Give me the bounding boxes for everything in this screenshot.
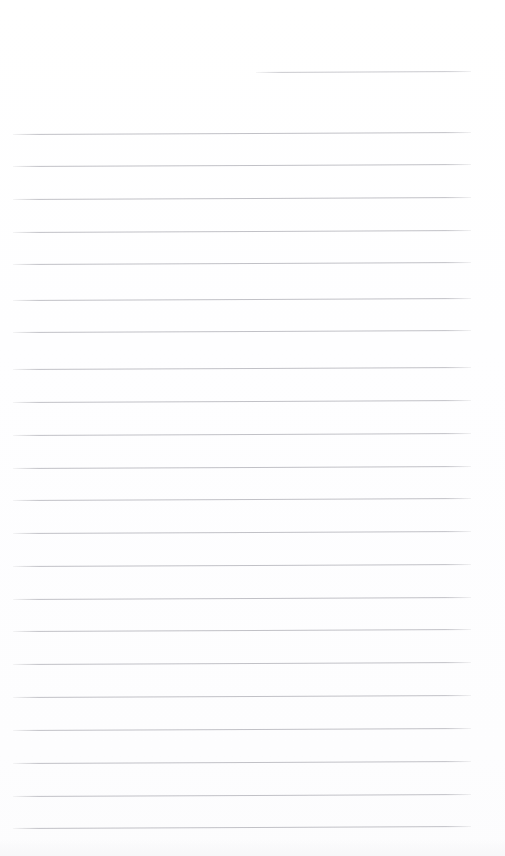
rule-line bbox=[13, 132, 471, 135]
rule-line bbox=[13, 728, 471, 731]
rule-line bbox=[13, 695, 471, 698]
rule-line bbox=[13, 498, 471, 501]
rule-line bbox=[13, 629, 471, 632]
rule-line bbox=[13, 466, 471, 469]
rule-line bbox=[13, 597, 471, 600]
rule-line bbox=[13, 662, 471, 665]
rule-line bbox=[13, 262, 471, 265]
rule-line bbox=[13, 330, 471, 333]
rule-line bbox=[13, 826, 471, 829]
rule-line bbox=[13, 400, 471, 403]
rule-line-partial bbox=[256, 71, 471, 73]
rule-line bbox=[13, 197, 471, 200]
rule-line bbox=[13, 761, 471, 764]
rule-line bbox=[13, 564, 471, 567]
rule-line bbox=[13, 230, 471, 233]
rule-line bbox=[13, 367, 471, 370]
rule-line bbox=[13, 531, 471, 534]
rule-line bbox=[13, 164, 471, 167]
lined-paper-page bbox=[0, 0, 505, 856]
rule-line bbox=[13, 433, 471, 436]
rule-line bbox=[13, 298, 471, 301]
rule-line bbox=[13, 794, 471, 797]
rule-line-group bbox=[0, 0, 505, 856]
